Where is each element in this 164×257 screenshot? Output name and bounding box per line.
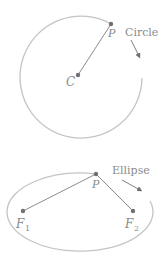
conic-diagram: C P Circle P Ellipse F 1 F 2 bbox=[0, 0, 164, 257]
center-point bbox=[76, 73, 80, 77]
focus-2-subscript: 2 bbox=[134, 224, 139, 233]
circle-point-p bbox=[109, 22, 113, 26]
circle-p-label: P bbox=[107, 27, 116, 40]
circle-title: Circle bbox=[125, 26, 158, 39]
circle-curve bbox=[20, 16, 142, 138]
focus-1-label: F bbox=[15, 217, 25, 231]
focus-1-subscript: 1 bbox=[25, 224, 30, 233]
ellipse-point-p bbox=[94, 172, 98, 176]
circle-arrow-icon bbox=[131, 40, 139, 56]
focal-segment-2 bbox=[96, 174, 133, 211]
ellipse-title: Ellipse bbox=[112, 164, 150, 177]
circle-figure: C P Circle bbox=[20, 16, 158, 138]
ellipse-p-label: P bbox=[91, 178, 100, 191]
ellipse-figure: P Ellipse F 1 F 2 bbox=[7, 164, 153, 251]
radius-segment bbox=[78, 24, 111, 75]
focal-segment-1 bbox=[23, 174, 96, 211]
focus-1-point bbox=[21, 209, 25, 213]
ellipse-arrow-icon bbox=[122, 180, 140, 190]
focus-2-label: F bbox=[124, 217, 134, 231]
center-label: C bbox=[66, 75, 75, 89]
focus-2-point bbox=[131, 209, 135, 213]
